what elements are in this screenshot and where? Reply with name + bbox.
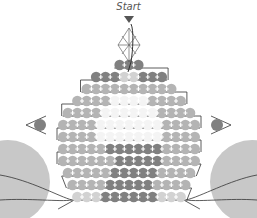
bead-grid <box>58 60 200 202</box>
thread-turn <box>200 140 201 152</box>
large-bead <box>210 140 257 218</box>
end-bead <box>34 119 46 131</box>
start-arrow-icon <box>124 16 134 23</box>
large-bead <box>0 140 50 218</box>
thread-turn <box>57 128 58 140</box>
beading-diagram <box>0 0 257 218</box>
thread-turn <box>196 164 201 176</box>
thread-turn <box>57 152 58 164</box>
crystal-bead-icon <box>118 28 140 62</box>
thread-turn <box>62 176 67 188</box>
end-bead <box>211 119 223 131</box>
